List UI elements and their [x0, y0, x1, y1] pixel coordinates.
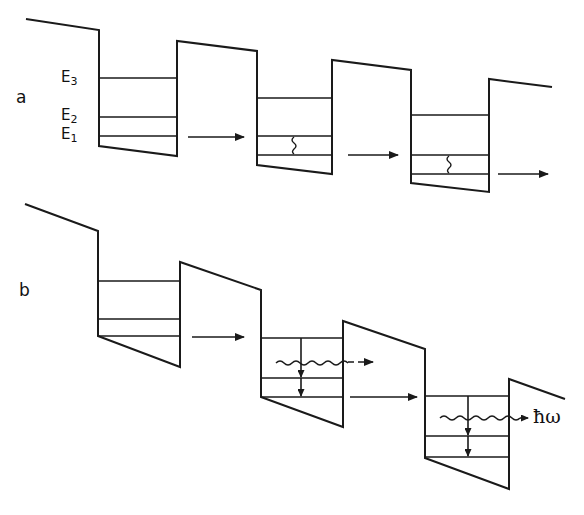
panel-a-label: a: [16, 89, 26, 106]
level-e2-sub: 2: [70, 113, 77, 126]
band-diagram-svg: [0, 0, 584, 515]
level-label-e3: E3: [61, 70, 77, 87]
level-label-e2: E2: [61, 108, 77, 125]
panel-b-photon-waves: [276, 361, 528, 420]
level-e3-sub: 3: [70, 75, 77, 88]
panel-b-energy-levels: [98, 281, 509, 457]
panel-b-tunnel-arrows: [192, 337, 417, 397]
panel-b-band-profile: [25, 204, 565, 489]
panel-b-label: b: [19, 282, 30, 299]
level-e1-sub: 1: [70, 132, 77, 145]
panel-a-band-profile: [26, 19, 552, 192]
level-label-e1: E1: [61, 127, 77, 144]
panel-a-energy-levels: [99, 78, 489, 174]
panel-a-tunnel-arrows: [188, 137, 548, 174]
photon-energy-label: ħω: [533, 407, 561, 426]
quantum-cascade-diagram: a E3 E2 E1 b ħω: [0, 0, 584, 515]
